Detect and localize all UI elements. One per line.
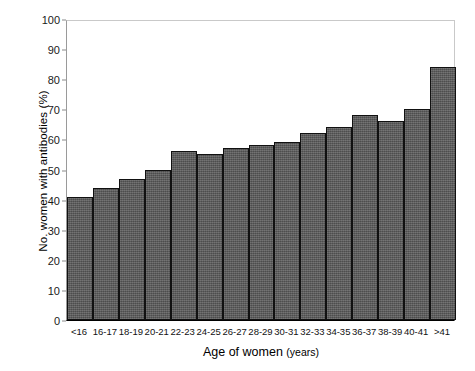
x-axis-tick-label: 32-33 [300,326,324,337]
y-axis-tick-label: 70 [0,104,60,116]
y-axis-tick-mark [62,230,66,231]
y-axis-tick-mark [62,200,66,201]
bar [300,133,326,320]
y-axis-tick-label: 90 [0,44,60,56]
plot-area [66,20,455,321]
y-axis-tick-label: 60 [0,134,60,146]
x-axis-tick-label: 20-21 [145,326,169,337]
bar [378,121,404,320]
x-axis-tick-label: 24-25 [196,326,220,337]
bar [93,188,119,320]
y-axis-tick-label: 0 [0,315,60,327]
x-axis-tick-label: 26-27 [222,326,246,337]
y-axis-tick-label: 30 [0,225,60,237]
x-axis-tick-label: 40-41 [404,326,428,337]
x-axis-title-unit: (years) [286,346,319,358]
bar [171,151,197,320]
bar [67,197,93,320]
x-axis-tick-label: <16 [71,326,87,337]
y-axis-tick-mark [62,110,66,111]
bar [352,115,378,320]
x-axis-tick-label: 38-39 [378,326,402,337]
y-axis-tick-mark [62,321,66,322]
x-axis-tick-label: 28-29 [248,326,272,337]
bar [274,142,300,320]
y-axis-tick-label: 100 [0,14,60,26]
y-axis-tick-label: 20 [0,255,60,267]
bar [223,148,249,320]
bar [404,109,430,320]
bar [197,154,223,320]
y-axis-tick-label: 40 [0,195,60,207]
x-axis-tick-label: 30-31 [274,326,298,337]
y-axis-tick-mark [62,170,66,171]
bar [119,179,145,320]
y-axis-tick-label: 50 [0,165,60,177]
x-axis-tick-label: 18-19 [119,326,143,337]
x-axis-tick-label: 16-17 [93,326,117,337]
y-axis-tick-mark [62,50,66,51]
x-axis-tick-label: >41 [434,326,450,337]
bars-layer [67,21,454,320]
bar [430,67,456,320]
y-axis-tick-mark [62,20,66,21]
x-axis-tick-label: 22-23 [171,326,195,337]
x-axis-tick-label: 36-37 [352,326,376,337]
x-axis-title: Age of women (years) [66,345,456,359]
x-axis-tick-label: 34-35 [326,326,350,337]
antibody-prevalence-bar-chart: No. women with antibodies (%) 0102030405… [0,0,475,371]
y-axis-tick-mark [62,140,66,141]
y-axis-tick-mark [62,260,66,261]
y-axis-tick-mark [62,290,66,291]
bar [145,170,171,321]
y-axis-tick-label: 10 [0,285,60,297]
x-axis-title-text: Age of women [203,345,283,359]
y-axis-tick-label: 80 [0,74,60,86]
bar [249,145,275,320]
bar [326,127,352,320]
y-axis-tick-mark [62,80,66,81]
